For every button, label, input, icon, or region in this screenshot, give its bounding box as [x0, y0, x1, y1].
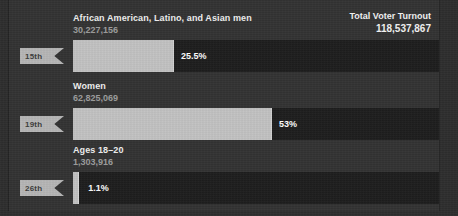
row-3-count: 1,303,916	[73, 156, 333, 169]
chart-figure: African American, Latino, and Asian men …	[0, 0, 458, 216]
chart-panel: African American, Latino, and Asian men …	[8, 0, 440, 211]
row-2-title: Women	[73, 80, 333, 92]
bar-fill-3	[73, 172, 79, 204]
bar-track-2: 53%	[73, 108, 439, 140]
bar-fill-2	[73, 108, 272, 140]
bar-percent-label-1: 25.5%	[181, 51, 207, 61]
row-3-title: Ages 18–20	[73, 144, 333, 156]
bar-fill-1	[73, 40, 174, 72]
row-3-header: Ages 18–20 1,303,916	[73, 144, 333, 169]
bar-percent-label-2: 53%	[279, 119, 297, 129]
total-turnout-label: Total Voter Turnout	[251, 10, 431, 22]
row-2-header: Women 62,825,069	[73, 80, 333, 105]
row-2-count: 62,825,069	[73, 92, 333, 105]
bar-track-1: 25.5%	[73, 40, 439, 72]
bar-track-3: 1.1%	[73, 172, 439, 204]
bar-percent-label-3: 1.1%	[88, 183, 109, 193]
total-turnout-value: 118,537,867	[251, 22, 431, 36]
total-turnout-block: Total Voter Turnout 118,537,867	[251, 10, 431, 36]
